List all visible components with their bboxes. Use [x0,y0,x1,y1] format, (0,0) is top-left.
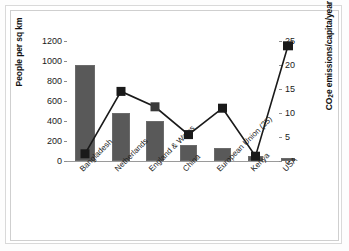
y-axis-right-tick-20: 20 [285,60,307,70]
co2-marker-netherlands[interactable] [117,87,126,96]
chart-screenshot: People per sq km CO2e emissions/capita/y… [0,0,349,251]
y-axis-left-tick-0: 0 [28,156,62,166]
y-axis-right-tick-5: 5 [285,132,307,142]
y-axis-left-tickmark [64,161,67,162]
y-axis-right-title-pre: CO [324,98,334,111]
y-axis-right-tick-15: 15 [285,84,307,94]
y-axis-left-tick-200: 200 [28,136,62,146]
y-axis-right-title-subscript: 2 [327,94,334,98]
y-axis-right-tickmark [279,161,282,162]
co2-marker-england-wales[interactable] [151,102,160,111]
y-axis-right-tick-10: 10 [285,108,307,118]
y-axis-left-tick-400: 400 [28,116,62,126]
y-axis-right-tickmark [279,41,282,42]
co2-marker-usa[interactable] [283,41,293,50]
y-axis-left-title: People per sq km [14,0,24,112]
chart-figure: People per sq km CO2e emissions/capita/y… [10,10,339,241]
y-axis-right-tickmark [279,89,282,90]
x-axis-line [67,161,280,162]
co2-marker-european-union[interactable] [218,104,227,113]
y-axis-left-tick-1000: 1000 [28,56,62,66]
y-axis-right-title-post: e emissions/capita/year (tonnes) [324,0,334,94]
y-axis-right-tickmark [279,137,282,138]
y-axis-right-tickmark [279,113,282,114]
y-axis-left-tick-800: 800 [28,76,62,86]
y-axis-left-tick-1200: 1200 [28,36,62,46]
y-axis-right-title: CO2e emissions/capita/year (tonnes) [324,0,334,113]
y-axis-left-tick-600: 600 [28,96,62,106]
